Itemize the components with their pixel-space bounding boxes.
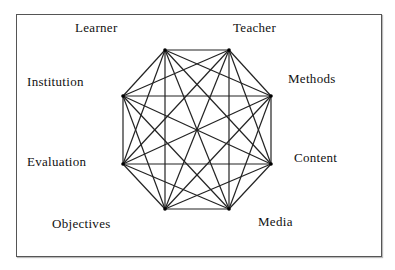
edge-content-media xyxy=(229,164,271,209)
edge-learner-institution xyxy=(123,50,165,96)
label-institution: Institution xyxy=(27,75,84,88)
edge-learner-evaluation xyxy=(123,50,165,164)
label-teacher: Teacher xyxy=(233,21,276,34)
vertex-objectives xyxy=(163,207,167,211)
vertex-teacher xyxy=(227,48,231,52)
vertex-methods xyxy=(269,94,273,98)
label-content: Content xyxy=(294,151,337,164)
edge-teacher-content xyxy=(229,50,271,164)
edge-media-institution xyxy=(123,96,229,209)
label-objectives: Objectives xyxy=(52,217,111,230)
label-learner: Learner xyxy=(75,21,118,34)
edge-learner-content xyxy=(165,50,271,164)
edge-teacher-evaluation xyxy=(123,50,229,164)
vertex-media xyxy=(227,207,231,211)
vertex-learner xyxy=(163,48,167,52)
label-methods: Methods xyxy=(288,72,336,85)
vertex-institution xyxy=(121,94,125,98)
label-media: Media xyxy=(258,215,293,228)
label-evaluation: Evaluation xyxy=(27,155,86,168)
edge-methods-objectives xyxy=(165,96,271,209)
edge-teacher-methods xyxy=(229,50,271,96)
vertex-content xyxy=(269,162,273,166)
vertex-evaluation xyxy=(121,162,125,166)
edge-objectives-evaluation xyxy=(123,164,165,209)
